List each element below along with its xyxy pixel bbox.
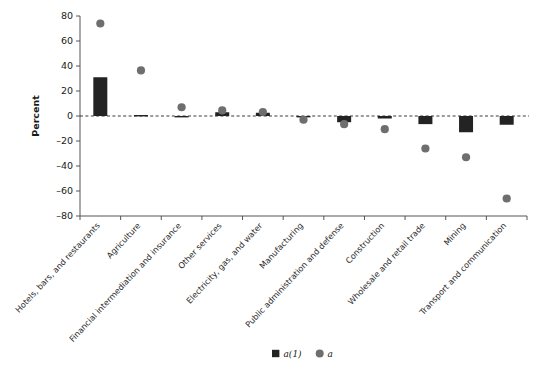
x-axis-label-8: Wholesale and retail trade bbox=[346, 221, 427, 307]
x-axis-label-10: Transport and communication bbox=[417, 221, 508, 318]
legend-marker-circle bbox=[316, 350, 324, 358]
point-4 bbox=[259, 108, 267, 116]
point-10 bbox=[503, 194, 511, 202]
point-0 bbox=[96, 19, 104, 27]
y-axis-tick-label: –40 bbox=[56, 160, 73, 171]
point-5 bbox=[299, 116, 307, 124]
point-8 bbox=[421, 144, 429, 152]
y-axis-tick-label: 80 bbox=[61, 10, 73, 21]
x-axis-label-9: Mining bbox=[442, 221, 468, 248]
x-axis-label-1: Agriculture bbox=[104, 221, 142, 261]
point-1 bbox=[137, 66, 145, 74]
y-axis-tick-label: 40 bbox=[61, 60, 73, 71]
point-9 bbox=[462, 153, 470, 161]
y-axis-tick-label: –80 bbox=[56, 210, 73, 221]
y-axis-tick-label: 0 bbox=[67, 110, 73, 121]
x-axis bbox=[80, 216, 527, 220]
bar-chart: 806040200–20–40–60–80 Percent Hotels, ba… bbox=[0, 0, 541, 373]
bar-10 bbox=[500, 116, 514, 125]
y-axis: 806040200–20–40–60–80 bbox=[56, 10, 80, 221]
bar-8 bbox=[418, 116, 432, 124]
x-axis-category-labels: Hotels, bars, and restaurantsAgriculture… bbox=[13, 220, 508, 344]
point-7 bbox=[381, 125, 389, 133]
chart-figure: 806040200–20–40–60–80 Percent Hotels, ba… bbox=[0, 0, 541, 373]
bar-7 bbox=[378, 116, 392, 119]
legend-marker-square bbox=[272, 350, 279, 357]
bar-9 bbox=[459, 116, 473, 132]
x-axis-label-0: Hotels, bars, and restaurants bbox=[13, 221, 102, 315]
point-6 bbox=[340, 120, 348, 128]
point-2 bbox=[177, 103, 185, 111]
y-axis-tick-label: –20 bbox=[56, 135, 73, 146]
bar-2 bbox=[175, 116, 189, 117]
x-axis-label-7: Construction bbox=[343, 221, 386, 266]
legend-label-0: a(1) bbox=[284, 349, 303, 359]
y-axis-tick-label: 20 bbox=[61, 85, 73, 96]
bar-series-a1 bbox=[93, 77, 513, 132]
chart-legend: a(1)a bbox=[272, 349, 333, 359]
y-axis-tick-label: 60 bbox=[61, 35, 73, 46]
x-axis-label-4: Electricity, gas, and water bbox=[184, 220, 265, 305]
bar-1 bbox=[134, 115, 148, 116]
bar-0 bbox=[93, 77, 107, 116]
point-3 bbox=[218, 106, 226, 114]
y-axis-title-text: Percent bbox=[30, 95, 41, 137]
legend-label-1: a bbox=[328, 349, 333, 359]
y-axis-title: Percent bbox=[30, 95, 41, 137]
y-axis-tick-label: –60 bbox=[56, 185, 73, 196]
point-series-a bbox=[96, 19, 511, 202]
